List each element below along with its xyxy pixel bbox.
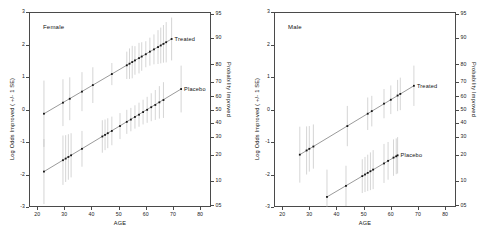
data-point bbox=[163, 43, 165, 45]
data-point bbox=[129, 63, 131, 65]
data-point bbox=[160, 45, 162, 47]
data-point bbox=[367, 172, 369, 174]
data-point bbox=[69, 98, 71, 100]
data-point bbox=[138, 114, 140, 116]
data-point bbox=[134, 60, 136, 62]
data-point bbox=[62, 102, 64, 104]
data-point bbox=[371, 110, 373, 112]
data-point bbox=[65, 158, 67, 160]
data-point bbox=[134, 116, 136, 118]
data-point bbox=[361, 175, 363, 177]
series-label-placebo: Placebo bbox=[184, 86, 206, 92]
data-point bbox=[146, 109, 148, 111]
series-placebo bbox=[43, 66, 182, 204]
data-point bbox=[383, 163, 385, 165]
series-label-treated: Treated bbox=[417, 83, 437, 89]
data-point bbox=[111, 130, 113, 132]
data-point bbox=[158, 101, 160, 103]
figure-root: -3-2-10123959080706050403020100520304050… bbox=[0, 0, 490, 238]
data-point bbox=[372, 169, 374, 171]
data-point bbox=[101, 136, 103, 138]
data-point bbox=[390, 99, 392, 101]
data-point bbox=[165, 41, 167, 43]
data-point bbox=[92, 84, 94, 86]
data-point bbox=[104, 134, 106, 136]
data-point bbox=[130, 119, 132, 121]
data-point bbox=[326, 196, 328, 198]
series-label-treated: Treated bbox=[175, 36, 195, 42]
data-point bbox=[62, 159, 64, 161]
data-point bbox=[81, 148, 83, 150]
data-point bbox=[142, 111, 144, 113]
data-point bbox=[308, 148, 310, 150]
data-point bbox=[367, 113, 369, 115]
data-point bbox=[107, 132, 109, 134]
data-point bbox=[126, 121, 128, 123]
data-point bbox=[387, 160, 389, 162]
series-label-placebo: Placebo bbox=[401, 152, 423, 158]
data-point bbox=[312, 146, 314, 148]
data-point bbox=[70, 154, 72, 156]
data-point bbox=[81, 91, 83, 93]
data-point bbox=[399, 93, 401, 95]
data-point bbox=[413, 85, 415, 87]
data-overlay bbox=[0, 0, 245, 238]
data-point bbox=[163, 99, 165, 101]
data-point bbox=[141, 56, 143, 58]
data-point bbox=[67, 156, 69, 158]
data-point bbox=[111, 73, 113, 75]
data-point bbox=[370, 170, 372, 172]
data-point bbox=[43, 171, 45, 173]
panel-male: -3-2-10123959080706050403020100520304050… bbox=[245, 0, 490, 238]
data-point bbox=[138, 57, 140, 59]
data-point bbox=[397, 154, 399, 156]
data-point bbox=[150, 106, 152, 108]
data-overlay bbox=[245, 0, 490, 238]
data-point bbox=[145, 53, 147, 55]
data-point bbox=[306, 150, 308, 152]
data-point bbox=[397, 95, 399, 97]
data-point bbox=[299, 154, 301, 156]
data-point bbox=[43, 113, 45, 115]
data-point bbox=[131, 61, 133, 63]
data-point bbox=[149, 51, 151, 53]
data-point bbox=[171, 38, 173, 40]
data-point bbox=[346, 125, 348, 127]
series-placebo bbox=[326, 137, 398, 207]
data-point bbox=[157, 46, 159, 48]
data-point bbox=[364, 174, 366, 176]
data-point bbox=[345, 185, 347, 187]
data-point bbox=[153, 48, 155, 50]
data-point bbox=[180, 88, 182, 90]
panel-female: -3-2-10123959080706050403020100520304050… bbox=[0, 0, 245, 238]
data-point bbox=[126, 64, 128, 66]
data-point bbox=[393, 157, 395, 159]
data-point bbox=[119, 125, 121, 127]
data-point bbox=[383, 103, 385, 105]
data-point bbox=[154, 104, 156, 106]
